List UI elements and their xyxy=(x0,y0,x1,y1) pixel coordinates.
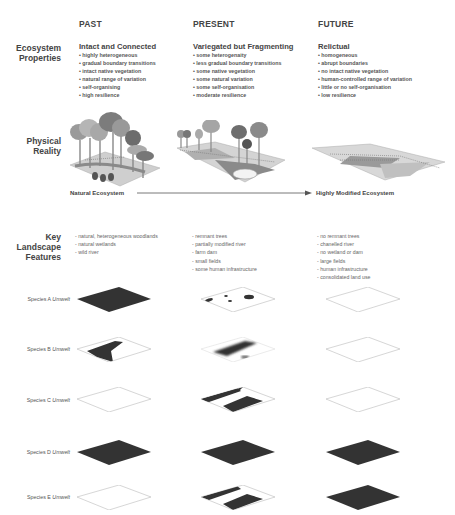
column-header-future: FUTURE xyxy=(318,19,354,29)
species-d-present-map xyxy=(201,440,275,465)
property-item: some native vegetation xyxy=(193,67,293,75)
row-label-line: Ecosystem xyxy=(4,43,61,53)
species-e-present-map xyxy=(201,485,275,510)
species-c-label: Species C Umwelt xyxy=(0,397,70,403)
species-b-future-map xyxy=(326,337,400,362)
row-label-ecosystem-properties: Ecosystem Properties xyxy=(4,43,61,63)
feature-item: no wetland or dam xyxy=(317,248,370,256)
feature-item: no remnant trees xyxy=(317,232,370,240)
feature-item: natural wetlands xyxy=(75,240,158,248)
species-suffix: Umwelt xyxy=(52,346,70,352)
feature-item: small fields xyxy=(192,257,257,265)
feature-item: large fields xyxy=(317,257,370,265)
property-item: no intact native vegetation xyxy=(318,67,412,75)
properties-list: highly heterogeneous gradual boundary tr… xyxy=(79,51,156,100)
feature-item: natural, heterogeneous woodlands xyxy=(75,232,158,240)
axis-end-label: Highly Modified Ecosystem xyxy=(316,190,394,196)
species-name: Species B xyxy=(27,346,51,352)
species-name: Species D xyxy=(27,449,51,455)
species-a-label: Species A Umwelt xyxy=(0,296,70,302)
species-name: Species E xyxy=(27,494,51,500)
properties-title: Variegated but Fragmenting xyxy=(193,42,293,51)
species-e-label: Species E Umwelt xyxy=(0,494,70,500)
property-item: homogeneous xyxy=(318,51,412,59)
property-item: self-organising xyxy=(79,83,156,91)
property-item: low resilience xyxy=(318,91,412,99)
species-a-future-map xyxy=(326,287,400,312)
feature-item: wild river xyxy=(75,248,158,256)
properties-list: homogeneous abrupt boundaries no intact … xyxy=(318,51,412,100)
property-item: little or no self-organisation xyxy=(318,83,412,91)
species-suffix: Umwelt xyxy=(52,397,70,403)
property-item: some natural variation xyxy=(193,75,293,83)
column-header-present: PRESENT xyxy=(193,19,235,29)
property-item: abrupt boundaries xyxy=(318,59,412,67)
features-past: natural, heterogeneous woodlands natural… xyxy=(75,232,158,257)
row-label-physical-reality: Physical Reality xyxy=(4,136,61,156)
features-present: remnant trees partially modified river f… xyxy=(192,232,257,273)
species-c-future-map xyxy=(326,387,400,412)
feature-item: remnant trees xyxy=(192,232,257,240)
feature-item: partially modified river xyxy=(192,240,257,248)
feature-item: farm dam xyxy=(192,248,257,256)
row-label-line: Key xyxy=(4,232,61,242)
row-label-key-landscape-features: Key Landscape Features xyxy=(4,232,61,262)
species-b-present-map xyxy=(201,337,275,362)
property-item: less gradual boundary transitions xyxy=(193,59,293,67)
species-e-future-map xyxy=(326,485,400,510)
property-item: moderate resilience xyxy=(193,91,293,99)
species-c-past-map xyxy=(77,387,151,412)
row-label-line: Properties xyxy=(4,53,61,63)
features-future: no remnant trees chanelled river no wetl… xyxy=(317,232,370,281)
species-d-future-map xyxy=(326,440,400,465)
species-d-label: Species D Umwelt xyxy=(0,449,70,455)
row-label-line: Features xyxy=(4,252,61,262)
properties-present: Variegated but Fragmenting some heteroge… xyxy=(193,42,293,100)
highly-modified-ecosystem-illustration xyxy=(310,140,445,185)
gradient-arrow-icon xyxy=(137,189,312,197)
species-b-label: Species B Umwelt xyxy=(0,346,70,352)
row-label-line: Physical xyxy=(4,136,61,146)
species-a-present-map xyxy=(201,287,275,312)
feature-item: human infrastructure xyxy=(317,265,370,273)
property-item: some self-organisation xyxy=(193,83,293,91)
property-item: intact native vegetation xyxy=(79,67,156,75)
species-c-present-map xyxy=(201,387,275,412)
properties-list: some heterogenaity less gradual boundary… xyxy=(193,51,293,100)
feature-item: consolidated land use xyxy=(317,273,370,281)
species-a-past-map xyxy=(77,287,151,312)
row-label-line: Reality xyxy=(4,146,61,156)
row-label-line: Landscape xyxy=(4,242,61,252)
present-ecosystem-illustration xyxy=(175,120,285,190)
feature-item: some human infrastructure xyxy=(192,265,257,273)
species-suffix: Umwelt xyxy=(52,449,70,455)
species-suffix: Umwelt xyxy=(52,296,70,302)
species-name: Species C xyxy=(27,397,51,403)
column-header-past: PAST xyxy=(79,19,102,29)
property-item: human-controlled range of variation xyxy=(318,75,412,83)
property-item: some heterogenaity xyxy=(193,51,293,59)
properties-title: Relictual xyxy=(318,42,412,51)
species-suffix: Umwelt xyxy=(52,494,70,500)
species-name: Species A xyxy=(28,296,51,302)
species-e-past-map xyxy=(77,485,151,510)
feature-item: chanelled river xyxy=(317,240,370,248)
natural-ecosystem-illustration xyxy=(65,110,165,190)
properties-past: Intact and Connected highly heterogeneou… xyxy=(79,42,156,100)
property-item: gradual boundary transitions xyxy=(79,59,156,67)
properties-future: Relictual homogeneous abrupt boundaries … xyxy=(318,42,412,100)
properties-title: Intact and Connected xyxy=(79,42,156,51)
property-item: high resilience xyxy=(79,91,156,99)
property-item: natural range of variation xyxy=(79,75,156,83)
property-item: highly heterogeneous xyxy=(79,51,156,59)
species-b-past-map xyxy=(77,337,151,362)
axis-start-label: Natural Ecosystem xyxy=(70,190,124,196)
species-d-past-map xyxy=(77,440,151,465)
